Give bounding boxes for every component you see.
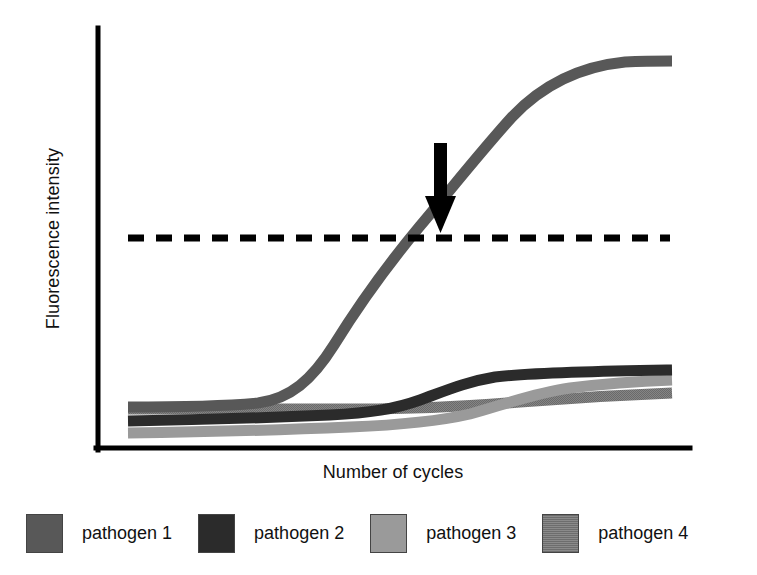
chart-legend: pathogen 1 pathogen 2 pathogen 3 pathoge…	[0, 500, 757, 566]
chart-canvas	[0, 0, 757, 496]
series-group	[128, 61, 672, 433]
legend-label-pathogen-3: pathogen 3	[426, 523, 516, 544]
figure-root: Fluorescence intensity Number of cycles …	[0, 0, 757, 575]
legend-label-pathogen-2: pathogen 2	[254, 523, 344, 544]
legend-item-pathogen-2: pathogen 2	[198, 514, 344, 553]
y-axis-title: Fluorescence intensity	[43, 114, 64, 364]
legend-label-pathogen-1: pathogen 1	[82, 523, 172, 544]
legend-label-pathogen-4: pathogen 4	[598, 523, 688, 544]
series-line-pathogen-1	[128, 61, 672, 407]
legend-swatch-pathogen-3	[370, 514, 407, 553]
legend-item-pathogen-4: pathogen 4	[542, 514, 688, 553]
x-axis-title: Number of cycles	[96, 462, 690, 483]
plot-area: Fluorescence intensity Number of cycles	[0, 0, 757, 496]
legend-item-pathogen-3: pathogen 3	[370, 514, 516, 553]
legend-swatch-pathogen-4	[542, 514, 579, 553]
legend-swatch-pathogen-2	[198, 514, 235, 553]
legend-item-pathogen-1: pathogen 1	[26, 514, 172, 553]
legend-swatch-pathogen-1	[26, 514, 63, 553]
